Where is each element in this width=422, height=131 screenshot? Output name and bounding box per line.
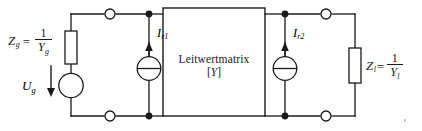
current-source-right-label: Ir2 <box>293 26 304 41</box>
load-impedance-fraction: 1 Yl <box>387 52 402 81</box>
source-impedance-equals: = <box>20 35 33 48</box>
leitwertmatrix-line1: Leitwertmatrix <box>163 53 265 66</box>
current-right-subscript: r2 <box>297 32 304 41</box>
load-impedance-equals: = <box>376 60 385 73</box>
terminal-left-top <box>105 9 115 19</box>
source-impedance-label: Zg = 1 Yg <box>8 27 52 56</box>
source-impedance-fraction: 1 Yg <box>35 27 52 56</box>
voltage-source-symbol <box>59 73 83 97</box>
load-impedance-denominator: Yl <box>387 66 402 81</box>
circuit-diagram-canvas: Zg = 1 Yg Ug Ir1 Leitwertmatrix [Y] Ir2 … <box>0 0 422 131</box>
junction-dot-right-top <box>282 11 289 18</box>
leitwertmatrix-line2: [Y] <box>163 66 265 79</box>
current-left-subscript: r1 <box>161 32 168 41</box>
junction-dot-left-top <box>146 11 153 18</box>
leitwertmatrix-label: Leitwertmatrix [Y] <box>163 53 265 79</box>
current-source-left-label: Ir1 <box>157 26 168 41</box>
source-impedance-denominator: Yg <box>35 41 52 56</box>
voltage-source-symbol-text: U <box>22 78 31 93</box>
source-impedance-symbol <box>65 31 77 64</box>
load-impedance-label: Zl = 1 Yl <box>366 52 403 81</box>
voltage-source-label: Ug <box>22 78 36 95</box>
terminal-left-bottom <box>105 111 115 121</box>
junction-dot-left-bottom <box>146 113 153 120</box>
voltage-source-subscript: g <box>31 85 35 95</box>
source-impedance-numerator: 1 <box>35 27 52 39</box>
scan-artifact-speck <box>404 119 406 122</box>
junction-dot-right-bottom <box>282 113 289 120</box>
terminal-right-top <box>321 9 331 19</box>
load-impedance-numerator: 1 <box>387 52 402 64</box>
load-impedance-symbol <box>349 48 361 83</box>
terminal-right-bottom <box>321 111 331 121</box>
voltage-arrowhead <box>47 88 55 97</box>
